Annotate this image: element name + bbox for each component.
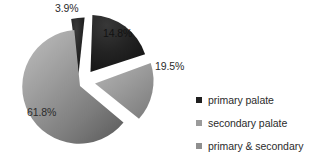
legend-item-primary-palate: primary palate	[196, 88, 317, 111]
pie-label-19-5: 19.5%	[155, 61, 184, 72]
pie-chart-svg	[0, 0, 196, 168]
legend-item-primary-and-secondary: primary & secondary	[196, 134, 317, 157]
pie-chart-figure: 3.9% 14.8% 19.5% 61.8% primary palate se…	[0, 0, 317, 168]
pie-slice-14-8	[91, 15, 146, 72]
legend-label-primary-and-secondary: primary & secondary	[208, 140, 303, 152]
legend-swatch-icon-primary-palate	[196, 97, 202, 103]
pie-label-14-8: 14.8%	[103, 28, 132, 39]
chart-legend: primary palate secondary palate primary …	[196, 88, 317, 157]
legend-swatch-icon-secondary-palate	[196, 120, 202, 126]
pie-chart-plot-area: 3.9% 14.8% 19.5% 61.8%	[0, 0, 196, 168]
pie-label-61-8: 61.8%	[27, 107, 56, 118]
pie-label-3-9: 3.9%	[55, 3, 79, 14]
legend-label-secondary-palate: secondary palate	[208, 117, 287, 129]
legend-item-secondary-palate: secondary palate	[196, 111, 317, 134]
legend-label-primary-palate: primary palate	[208, 94, 274, 106]
legend-swatch-icon-primary-and-secondary	[196, 143, 202, 149]
